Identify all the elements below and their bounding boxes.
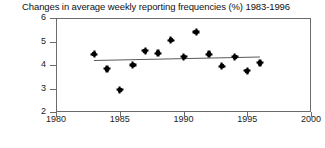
y-axis-tick-label: 5 [30, 36, 46, 46]
data-point [92, 52, 97, 57]
data-point [130, 63, 135, 68]
x-axis-tick-mark [247, 112, 248, 117]
data-point [207, 52, 212, 57]
data-point [245, 68, 250, 73]
data-point [143, 48, 148, 53]
data-point [258, 60, 263, 65]
data-point [181, 54, 186, 59]
x-axis-tick-mark [56, 112, 57, 117]
data-point [117, 87, 122, 92]
data-point [156, 51, 161, 56]
chart-title: Changes in average weekly reporting freq… [22, 1, 290, 12]
data-point [105, 66, 110, 71]
data-point [168, 38, 173, 43]
x-axis-tick-mark [311, 112, 312, 117]
x-axis-tick-mark [120, 112, 121, 117]
x-axis-tick-label: 2000 [294, 114, 325, 124]
plot-area [56, 18, 311, 112]
y-axis-tick-label: 6 [30, 12, 46, 22]
x-axis-tick-mark [184, 112, 185, 117]
y-axis-tick-label: 3 [30, 83, 46, 93]
y-axis-tick-label: 4 [30, 59, 46, 69]
chart-container: Changes in average weekly reporting freq… [0, 0, 325, 148]
data-point [232, 54, 237, 59]
data-point [194, 30, 199, 35]
data-point [219, 64, 224, 69]
